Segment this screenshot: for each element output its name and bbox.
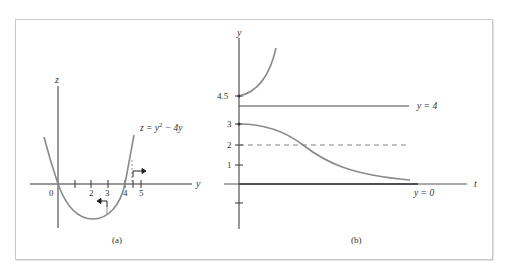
panel-b-tick-label-3: 3	[227, 119, 232, 129]
panel-b-tick-label-2: 2	[227, 140, 232, 150]
panel-b-vertical-axis-label: y	[236, 27, 242, 38]
panel-a-tick-label-0: 0	[49, 188, 54, 198]
arrow-right-icon	[133, 169, 146, 178]
panel-a-tick-label-4: 4	[123, 188, 128, 198]
panel-b: y t 4.5 3 2 1 y = 4 y = 0 (b)	[217, 27, 477, 245]
panel-b-solution-diverging	[239, 48, 276, 96]
panel-a-vertical-axis-label: z	[54, 74, 59, 85]
panel-b-horizontal-axis-label: t	[474, 178, 477, 189]
panel-a-tick-label-5: 5	[139, 188, 144, 198]
panel-a-tick-label-2: 2	[89, 188, 94, 198]
panel-a-tick-label-3: 3	[105, 188, 110, 198]
figure-canvas: z y 0 2 3 4 5 z = y2 − 4y (a)	[0, 0, 508, 273]
panel-b-tick-label-4-5: 4.5	[217, 91, 229, 101]
panel-a-curve-label: z = y2 − 4y	[139, 121, 183, 133]
panel-a-caption: (a)	[112, 235, 122, 245]
panel-b-start-point-4-5	[238, 95, 241, 98]
panel-b-caption: (b)	[351, 235, 362, 245]
panel-a-horizontal-axis-label: y	[195, 178, 201, 189]
panel-b-equilibrium-label-y4: y = 4	[416, 101, 437, 111]
panel-b-start-point-3	[238, 123, 241, 126]
panel-b-tick-label-1: 1	[227, 160, 232, 170]
panel-b-equilibrium-label-y0: y = 0	[413, 188, 434, 198]
panel-a: z y 0 2 3 4 5 z = y2 − 4y (a)	[30, 74, 201, 245]
arrow-left-icon	[97, 199, 107, 208]
panel-b-solution-decaying	[239, 124, 410, 180]
